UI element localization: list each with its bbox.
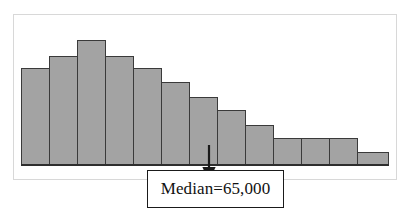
histogram-bar	[105, 56, 134, 165]
median-label: Median=65,000	[161, 179, 271, 199]
histogram-bar	[329, 138, 358, 165]
median-callout-box: Median=65,000	[147, 170, 284, 208]
histogram-bar	[217, 110, 246, 165]
histogram-bar	[21, 68, 50, 165]
histogram-bar	[273, 138, 302, 165]
histogram-bar	[49, 56, 78, 165]
histogram-bar	[161, 82, 190, 165]
histogram-bar	[133, 68, 162, 165]
histogram-bar	[245, 125, 274, 165]
histogram-bar	[77, 40, 106, 165]
histogram-figure: Median=65,000	[0, 0, 410, 223]
histogram-bar	[301, 138, 330, 165]
